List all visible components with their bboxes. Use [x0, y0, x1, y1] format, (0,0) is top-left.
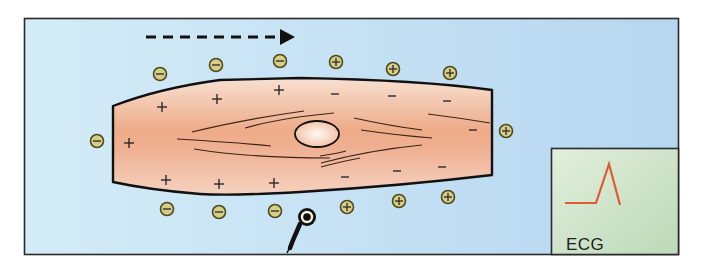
negative-ion-icon: [161, 203, 174, 216]
negative-ion-icon: [210, 59, 223, 72]
positive-ion-icon: [500, 125, 513, 138]
negative-ion-icon: [274, 55, 287, 68]
ecg-label: ECG: [566, 235, 604, 255]
negative-ion-icon: [154, 68, 167, 81]
positive-ion-icon: [341, 201, 354, 214]
negative-ion-icon: [213, 206, 226, 219]
nucleus: [295, 121, 339, 147]
positive-ion-icon: [393, 195, 406, 208]
negative-ion-icon: [269, 205, 282, 218]
positive-ion-icon: [330, 56, 343, 69]
positive-ion-icon: [442, 191, 455, 204]
myocyte-depolarization-diagram: [0, 0, 704, 269]
positive-ion-icon: [444, 67, 457, 80]
positive-ion-icon: [387, 63, 400, 76]
negative-ion-icon: [91, 135, 104, 148]
